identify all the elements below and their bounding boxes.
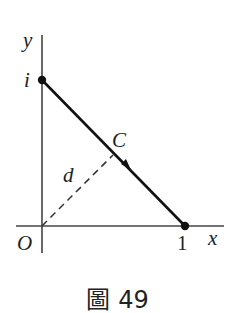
caption-number: 49: [118, 286, 149, 313]
origin-label: O: [17, 231, 32, 255]
distance-dashed-line: [42, 155, 113, 226]
complex-plane-diagram: y i C d O 1 x: [0, 0, 235, 313]
figure-caption: 圖49: [0, 280, 235, 313]
point-i-label: i: [24, 68, 30, 92]
point-one-label: 1: [177, 231, 188, 255]
point-one-dot: [181, 222, 189, 230]
distance-d-label: d: [63, 163, 74, 187]
curve-c-label: C: [112, 128, 127, 152]
x-axis-label: x: [207, 226, 218, 250]
point-i-dot: [38, 76, 46, 84]
y-axis-label: y: [21, 28, 33, 52]
caption-prefix: 圖: [86, 286, 110, 313]
